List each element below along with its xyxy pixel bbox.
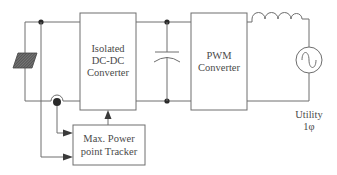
top-wire-input <box>25 22 80 53</box>
utility-label: Utility <box>295 109 323 120</box>
bottom-wire-input <box>25 68 80 101</box>
pwm-label-line2: Converter <box>198 62 240 73</box>
mppt-control-arrow-icon <box>105 110 112 119</box>
current-sense-arrow-icon <box>63 130 73 137</box>
utility-phase-label: 1φ <box>303 121 314 132</box>
voltage-sense-arrow-icon <box>63 154 73 161</box>
dcdc-label-line3: Converter <box>87 67 129 78</box>
mppt-label-line1: Max. Power <box>83 133 135 144</box>
output-top-wire <box>247 19 252 22</box>
dcdc-label-line1: Isolated <box>91 43 125 54</box>
mppt-block: Max. Power point Tracker <box>73 125 145 165</box>
diagram-canvas: Isolated DC-DC Converter Max. Power poin… <box>0 0 337 175</box>
voltage-sense-wire <box>41 22 64 157</box>
output-right-wire <box>302 19 309 47</box>
mppt-label-line2: point Tracker <box>81 146 138 157</box>
pwm-converter-block: PWM Converter <box>191 13 247 110</box>
pv-array-icon <box>13 53 37 68</box>
inductor-icon <box>252 13 302 19</box>
dcdc-label-line2: DC-DC <box>92 55 125 66</box>
current-sense-wire <box>57 106 64 133</box>
ac-source-icon <box>296 47 322 73</box>
capacitor-icon <box>154 22 180 101</box>
pwm-label-line1: PWM <box>206 50 232 61</box>
output-bottom-wire <box>247 73 309 101</box>
dcdc-converter-block: Isolated DC-DC Converter <box>80 13 136 110</box>
current-sensor-icon <box>53 98 61 106</box>
